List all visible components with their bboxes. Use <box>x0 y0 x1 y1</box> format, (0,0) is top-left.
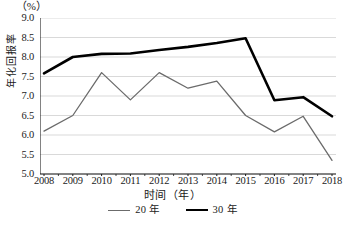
plot-area <box>40 18 336 174</box>
plot-svg <box>40 18 336 176</box>
legend-swatch <box>108 210 130 211</box>
y-tick-label: 6.5 <box>10 111 34 121</box>
legend-label: 20 年 <box>135 204 159 216</box>
legend-entry: 20 年 <box>108 204 159 216</box>
series-line <box>44 73 332 161</box>
y-tick-label: 5.5 <box>10 150 34 160</box>
y-tick-label: 7.5 <box>10 72 34 82</box>
legend-swatch <box>186 209 208 211</box>
series-line <box>44 38 332 116</box>
y-tick-label: 9.0 <box>10 13 34 23</box>
x-tick-label: 2018 <box>315 175 345 187</box>
y-tick-label: 8.5 <box>10 33 34 43</box>
annualized-return-line-chart: （%） 年化回报率 9.08.58.07.57.06.56.05.55.0 20… <box>0 0 345 226</box>
chart-legend: 20 年30 年 <box>0 204 345 216</box>
legend-entry: 30 年 <box>186 204 237 216</box>
x-axis-tick-labels: 2008200920102011201220132014201520162017… <box>40 175 336 189</box>
x-axis-title: 时间（年） <box>0 189 345 202</box>
y-tick-label: 6.0 <box>10 130 34 140</box>
y-tick-label: 8.0 <box>10 52 34 62</box>
legend-label: 30 年 <box>213 204 237 216</box>
y-tick-label: 7.0 <box>10 91 34 101</box>
